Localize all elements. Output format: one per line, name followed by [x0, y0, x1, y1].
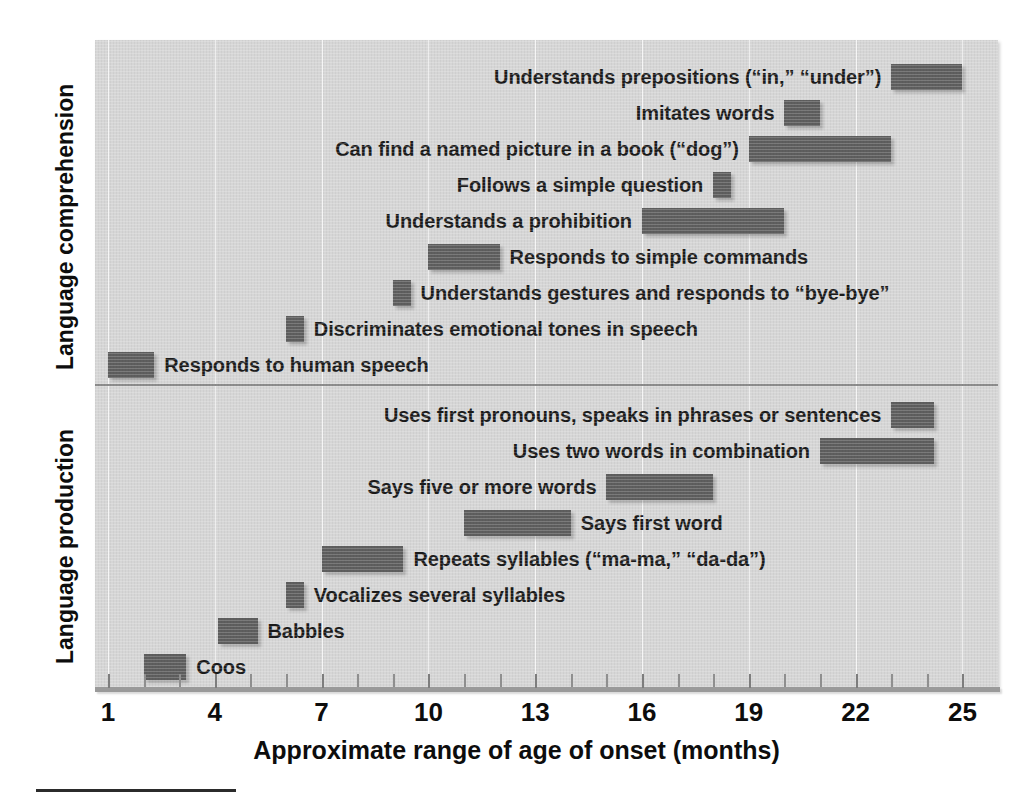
range-bar	[286, 582, 304, 608]
chart-row: Responds to human speech	[95, 348, 998, 382]
x-tick-12	[500, 674, 502, 687]
range-bar	[108, 352, 154, 378]
chart-row: Imitates words	[95, 96, 998, 130]
x-tick-8	[357, 674, 359, 687]
x-tick-label-13: 13	[521, 697, 550, 728]
x-tick-10	[428, 674, 430, 688]
range-bar	[464, 510, 571, 536]
range-bar	[820, 438, 934, 464]
range-bar	[749, 136, 891, 162]
x-tick-19	[749, 674, 751, 688]
range-bar-label: Understands a prohibition	[386, 205, 632, 237]
x-tick-20	[784, 674, 786, 687]
x-tick-4	[215, 674, 217, 688]
range-bar-label: Responds to simple commands	[510, 241, 808, 273]
chart-row: Understands a prohibition	[95, 204, 998, 238]
range-bar	[642, 208, 784, 234]
chart-row: Follows a simple question	[95, 168, 998, 202]
chart-row: Can find a named picture in a book (“dog…	[95, 132, 998, 166]
range-bar-label: Imitates words	[636, 97, 775, 129]
x-tick-21	[820, 674, 822, 687]
range-bar-label: Babbles	[268, 615, 345, 647]
x-tick-24	[927, 674, 929, 687]
x-tick-5	[250, 674, 252, 687]
range-bar-label: Follows a simple question	[457, 169, 703, 201]
x-tick-13	[535, 674, 537, 688]
range-bar-label: Can find a named picture in a book (“dog…	[335, 133, 739, 165]
x-tick-11	[464, 674, 466, 687]
x-tick-22	[856, 674, 858, 688]
range-bar-label: Discriminates emotional tones in speech	[314, 313, 698, 345]
chart-row: Babbles	[95, 614, 998, 648]
chart-row: Coos	[95, 650, 998, 684]
range-bar	[713, 172, 731, 198]
range-bar-label: Understands gestures and responds to “by…	[421, 277, 890, 309]
x-tick-label-1: 1	[101, 697, 115, 728]
range-bar	[322, 546, 404, 572]
range-bar	[393, 280, 411, 306]
x-tick-15	[606, 674, 608, 687]
x-tick-7	[322, 674, 324, 688]
range-bar-label: Says five or more words	[368, 471, 597, 503]
x-tick-25	[962, 674, 964, 688]
x-tick-2	[144, 674, 146, 687]
language-development-chart: Language comprehension Language producti…	[0, 0, 1033, 793]
range-bar-label: Uses first pronouns, speaks in phrases o…	[384, 399, 881, 431]
range-bar-label: Uses two words in combination	[513, 435, 810, 467]
chart-row: Discriminates emotional tones in speech	[95, 312, 998, 346]
range-bar	[784, 100, 820, 126]
range-bar-label: Vocalizes several syllables	[314, 579, 566, 611]
range-bar-label: Understands prepositions (“in,” “under”)	[494, 61, 881, 93]
x-tick-6	[286, 674, 288, 687]
x-tick-label-10: 10	[414, 697, 443, 728]
chart-row: Says five or more words	[95, 470, 998, 504]
chart-row: Vocalizes several syllables	[95, 578, 998, 612]
x-tick-label-22: 22	[841, 697, 870, 728]
panel-label-language-production: Language production	[52, 429, 79, 664]
x-tick-18	[713, 674, 715, 687]
x-tick-label-19: 19	[734, 697, 763, 728]
range-bar	[891, 402, 934, 428]
range-bar-label: Responds to human speech	[164, 349, 428, 381]
chart-row: Understands gestures and responds to “by…	[95, 276, 998, 310]
x-tick-23	[891, 674, 893, 687]
range-bar	[891, 64, 962, 90]
range-bar	[428, 244, 499, 270]
panel-label-language-comprehension: Language comprehension	[52, 84, 79, 370]
x-tick-3	[179, 674, 181, 687]
x-tick-label-16: 16	[628, 697, 657, 728]
x-tick-16	[642, 674, 644, 688]
range-bar-label: Repeats syllables (“ma-ma,” “da-da”)	[413, 543, 765, 575]
chart-row: Uses first pronouns, speaks in phrases o…	[95, 398, 998, 432]
chart-row: Understands prepositions (“in,” “under”)	[95, 60, 998, 94]
x-tick-1	[108, 674, 110, 688]
x-axis-title: Approximate range of age of onset (month…	[0, 736, 1033, 765]
plot-area: Understands prepositions (“in,” “under”)…	[95, 40, 998, 687]
range-bar-label: Coos	[196, 651, 246, 683]
range-bar	[286, 316, 304, 342]
x-tick-label-7: 7	[314, 697, 328, 728]
x-tick-14	[571, 674, 573, 687]
chart-row: Responds to simple commands	[95, 240, 998, 274]
range-bar-label: Says first word	[581, 507, 723, 539]
x-tick-label-4: 4	[208, 697, 222, 728]
range-bar	[218, 618, 257, 644]
chart-row: Uses two words in combination	[95, 434, 998, 468]
chart-row: Says first word	[95, 506, 998, 540]
x-axis-line	[95, 687, 1000, 692]
panel-divider	[95, 384, 998, 386]
chart-row: Repeats syllables (“ma-ma,” “da-da”)	[95, 542, 998, 576]
x-tick-label-25: 25	[948, 697, 977, 728]
x-tick-9	[393, 674, 395, 687]
x-tick-17	[678, 674, 680, 687]
range-bar	[606, 474, 713, 500]
footer-rule	[36, 789, 236, 792]
